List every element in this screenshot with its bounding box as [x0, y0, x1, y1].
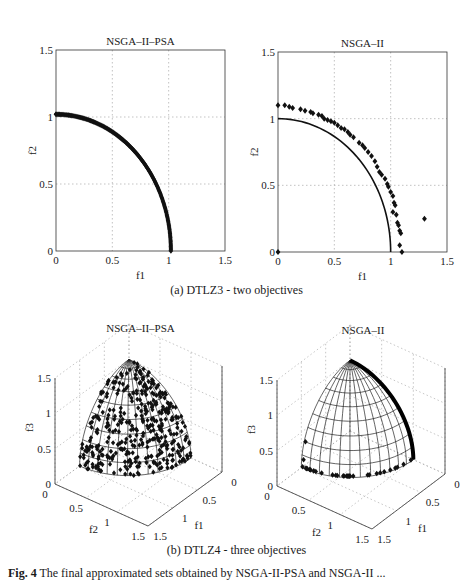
z-tick-label: 1.5 [259, 374, 273, 386]
f1-tick-label: 1.5 [153, 530, 167, 542]
z-tick-label: 1 [46, 407, 52, 419]
y-tick-label: 1.5 [39, 44, 53, 56]
chart-b2: 00.511.500.511.500.511.5f3f2f1NSGA–II [245, 324, 460, 545]
y-tick-label: 1.5 [261, 46, 275, 58]
z-tick-label: 0.5 [37, 443, 51, 455]
z-tick-label: 0.5 [259, 445, 273, 457]
f1-axis-label: f1 [194, 519, 203, 531]
x-tick-label: 0 [53, 254, 59, 266]
chart-title: NSGA–II [342, 324, 385, 336]
f1-tick-label: 1 [406, 515, 412, 527]
chart-b1: 00.511.500.511.500.511.5f3f2f1NSGA–II–PS… [23, 322, 237, 542]
f1-tick-label: 0 [231, 476, 237, 488]
y-tick-label: 0.5 [261, 179, 275, 191]
figure-caption: Fig. 4 The final approximated sets obtai… [8, 566, 385, 581]
subcaption-a: (a) DTLZ3 - two objectives [0, 283, 473, 298]
f2-tick-label: 0.5 [69, 502, 83, 514]
y-tick-label: 0 [270, 246, 276, 258]
axes-box [278, 52, 447, 252]
chart-title: NSGA–II–PSA [106, 35, 175, 47]
z-tick-label: 1.5 [37, 372, 51, 384]
f1-tick-label: 0.5 [426, 496, 440, 508]
chart-a2: 00.511.500.511.5f1f2NSGA–II [248, 37, 454, 282]
y-axis-label: f2 [26, 146, 38, 155]
grid-lines [278, 52, 447, 252]
f1-tick-label: 0 [454, 478, 460, 490]
x-tick-label: 1 [166, 254, 172, 266]
f2-tick-label: 0.5 [292, 504, 306, 516]
f2-axis-label: f2 [312, 526, 321, 538]
f1-tick-label: 1 [182, 512, 188, 524]
x-tick-label: 0.5 [105, 254, 119, 266]
f1-axis-label: f1 [418, 522, 427, 534]
x-axis-label: f1 [358, 270, 367, 282]
chart-title: NSGA–II [341, 37, 384, 49]
x-axis-label: f1 [136, 269, 145, 281]
z-tick-label: 1 [268, 409, 274, 421]
z-axis-label: f3 [23, 422, 35, 432]
grid-lines [277, 325, 445, 529]
x-tick-label: 0 [275, 255, 281, 267]
y-tick-label: 0 [48, 245, 54, 257]
y-axis-label: f2 [248, 147, 260, 156]
x-tick-label: 0.5 [327, 255, 341, 267]
z-axis-label: f3 [245, 424, 257, 434]
x-tick-label: 1 [388, 255, 394, 267]
x-tick-label: 1.5 [440, 255, 454, 267]
f2-tick-label: 1 [104, 516, 110, 528]
y-tick-label: 1 [270, 113, 276, 125]
data-points [276, 102, 427, 255]
figure-caption-text: The final approximated sets obtained by … [37, 566, 386, 580]
pareto-front-mesh [301, 360, 413, 477]
y-tick-label: 1 [48, 111, 54, 123]
y-tick-label: 0.5 [39, 178, 53, 190]
f2-axis-label: f2 [89, 523, 98, 535]
grid-lines [56, 50, 225, 251]
data-points [54, 112, 173, 254]
axes-box [56, 50, 225, 251]
f1-tick-label: 0.5 [202, 494, 216, 506]
chart-title: NSGA–II–PSA [106, 322, 175, 334]
f2-tick-label: 1 [328, 519, 334, 531]
figure-caption-label: Fig. 4 [8, 566, 37, 580]
f2-tick-label: 1.5 [131, 530, 145, 542]
chart-a1: 00.511.500.511.5f1f2NSGA–II–PSA [26, 35, 232, 281]
subcaption-b: (b) DTLZ4 - three objectives [0, 543, 473, 558]
f2-tick-label: 0 [42, 488, 48, 500]
x-tick-label: 1.5 [218, 254, 232, 266]
f2-tick-label: 0 [264, 490, 270, 502]
